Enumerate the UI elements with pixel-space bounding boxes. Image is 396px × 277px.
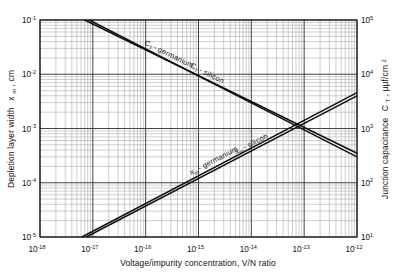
y-axis-title-var: x: [6, 96, 16, 101]
y2-axis-title-unit: , μμf/cm: [380, 65, 390, 96]
y-axis-title-main: Depletion layer width: [6, 107, 16, 188]
y2-axis-title-unit-sup: 2: [381, 59, 387, 62]
figure-container: 10-1810-1710-1610-1510-1410-1310-12 10-1…: [0, 0, 396, 277]
y2-axis-title-var: C: [380, 105, 390, 111]
y-axis-title-unit: , cm: [6, 70, 16, 86]
x-axis-title: Voltage/impurity concentration, V/N rati…: [120, 258, 276, 268]
log-log-chart: 10-1810-1710-1610-1510-1410-1310-12 10-1…: [0, 0, 396, 277]
y2-axis-title-main: Junction capacitance: [380, 117, 390, 198]
y2-axis-title-var-sub: T: [385, 98, 391, 102]
y-axis-title-var-sub: m: [11, 89, 17, 94]
